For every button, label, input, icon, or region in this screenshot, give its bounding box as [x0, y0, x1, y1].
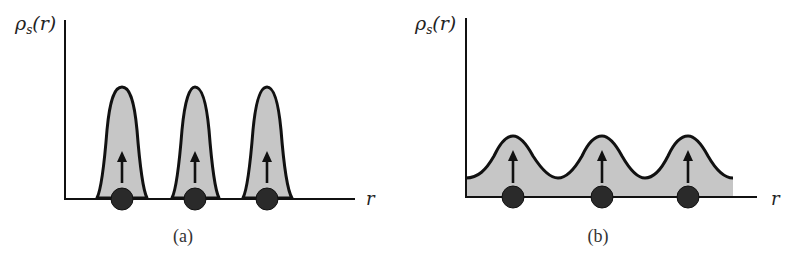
atom-icon — [111, 188, 133, 210]
atom-icon — [256, 188, 278, 210]
x-axis-label-b: r — [771, 188, 781, 209]
spin-density-figure: ρs(r) r (a) ρs(r) r (b) — [0, 0, 798, 269]
panel-b: ρs(r) r (b) — [414, 12, 781, 247]
atom-icon — [591, 186, 613, 208]
panel-label-a: (a) — [173, 226, 193, 247]
atom-icon — [184, 188, 206, 210]
atom-icon — [677, 186, 699, 208]
figure-caption-cropped — [320, 258, 780, 269]
y-axis-label-a: ρs(r) — [14, 12, 56, 37]
panel-a: ρs(r) r (a) — [14, 12, 376, 247]
atom-icon — [502, 186, 524, 208]
panel-label-b: (b) — [588, 226, 609, 247]
y-axis-label-b: ρs(r) — [414, 12, 456, 37]
x-axis-label-a: r — [366, 188, 376, 209]
